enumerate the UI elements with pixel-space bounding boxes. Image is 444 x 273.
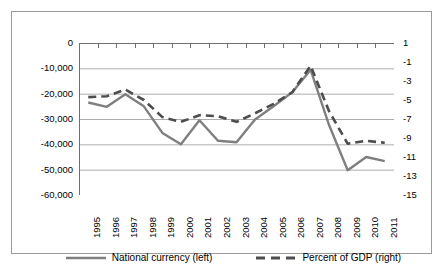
x-axis-tick-label: 2004 xyxy=(259,217,269,238)
series-line-national-currency xyxy=(88,70,384,170)
x-axis-tick-label: 2006 xyxy=(296,217,306,238)
x-axis-tick-label: 2007 xyxy=(315,217,325,238)
left-axis-tick-label: -40,000 xyxy=(41,139,73,149)
x-axis-tick-label: 2011 xyxy=(389,218,399,238)
x-axis-tick-label: 2003 xyxy=(241,217,251,238)
x-axis-tick-label: 1996 xyxy=(111,217,121,238)
x-axis-tick-label: 2010 xyxy=(370,217,380,238)
left-axis-tick-label: -60,000 xyxy=(41,190,73,200)
right-axis-tick-label: -15 xyxy=(403,190,417,200)
legend-label: Percent of GDP (right) xyxy=(302,253,401,263)
chart-frame: 0-10,000-20,000-30,000-40,000-50,000-60,… xyxy=(11,11,432,254)
chart-container: 0-10,000-20,000-30,000-40,000-50,000-60,… xyxy=(0,0,444,273)
left-y-axis: 0-10,000-20,000-30,000-40,000-50,000-60,… xyxy=(12,43,73,195)
series-line-percent-of-gdp xyxy=(88,66,384,144)
x-axis-tick-label: 2002 xyxy=(222,217,232,238)
x-axis-tick-label: 2008 xyxy=(333,217,343,238)
right-axis-tick-label: -1 xyxy=(403,57,411,67)
legend-item[interactable]: National currency (left) xyxy=(66,253,213,263)
x-axis-tick-label: 2005 xyxy=(278,217,288,238)
left-axis-tick-label: -50,000 xyxy=(41,165,73,175)
legend-dashed-line-icon xyxy=(256,253,296,263)
plot-area xyxy=(79,43,394,195)
plot-svg xyxy=(79,43,394,195)
x-axis: 1995199619971998199920002001200220032004… xyxy=(79,197,394,241)
right-axis-tick-label: -13 xyxy=(403,171,417,181)
right-y-axis: 1-1-3-5-7-9-11-13-15 xyxy=(398,43,438,195)
right-axis-tick-label: -5 xyxy=(403,95,411,105)
left-axis-tick-label: -10,000 xyxy=(41,63,73,73)
x-axis-tick-label: 2000 xyxy=(185,217,195,238)
right-axis-tick-label: -9 xyxy=(403,133,411,143)
legend-solid-line-icon xyxy=(66,253,106,263)
left-axis-tick-label: -30,000 xyxy=(41,114,73,124)
legend-label: National currency (left) xyxy=(112,253,213,263)
right-axis-tick-label: -7 xyxy=(403,114,411,124)
x-axis-tick-label: 1998 xyxy=(148,217,158,238)
left-axis-tick-label: 0 xyxy=(68,38,73,48)
x-axis-tick-label: 1995 xyxy=(92,217,102,238)
legend-item[interactable]: Percent of GDP (right) xyxy=(256,253,401,263)
x-axis-tick-label: 1999 xyxy=(166,217,176,238)
x-axis-tick-label: 2001 xyxy=(203,217,213,238)
x-axis-tick-label: 2009 xyxy=(352,217,362,238)
chart-legend: National currency (left)Percent of GDP (… xyxy=(23,248,444,268)
right-axis-tick-label: -11 xyxy=(403,152,416,162)
left-axis-tick-label: -20,000 xyxy=(41,89,73,99)
x-axis-tick-label: 1997 xyxy=(129,217,139,238)
scan-artifact xyxy=(250,0,400,7)
right-axis-tick-label: 1 xyxy=(403,38,408,48)
right-axis-tick-label: -3 xyxy=(403,76,411,86)
